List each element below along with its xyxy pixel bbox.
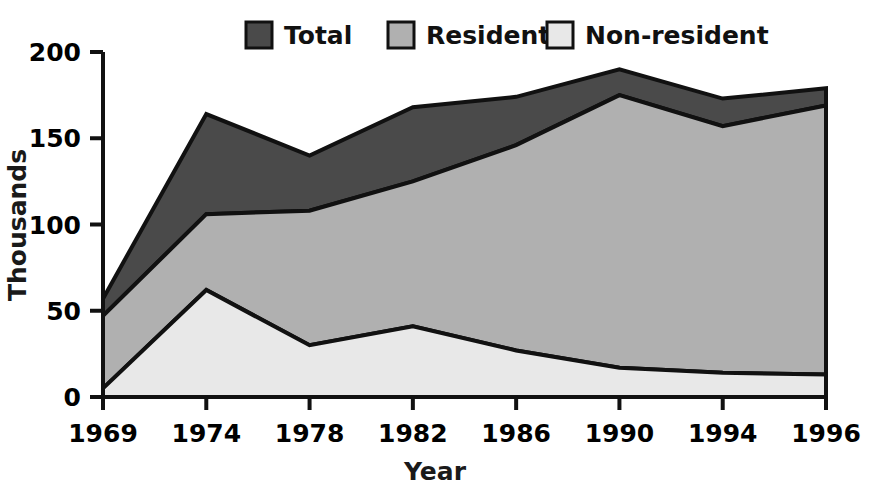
x-axis-tick-label: 1996 — [791, 419, 861, 448]
legend-label-non-resident: Non-resident — [585, 21, 769, 50]
chart-canvas: Total Resident Non-resident 0501001 — [0, 0, 870, 489]
x-axis-title: Year — [403, 457, 467, 486]
legend-label-total: Total — [284, 21, 352, 50]
y-axis-tick-labels: 050100150200 — [29, 38, 81, 412]
y-axis-tick-label: 50 — [46, 297, 81, 326]
y-axis-tick-label: 200 — [29, 38, 81, 67]
stacked-area-chart: Total Resident Non-resident 0501001 — [0, 0, 870, 489]
legend-label-resident: Resident — [426, 21, 550, 50]
x-axis-tick-label: 1978 — [275, 419, 345, 448]
x-axis-tick-labels: 19691974197819821986199019941996 — [68, 419, 861, 448]
x-axis-tick-label: 1974 — [171, 419, 241, 448]
plot-area — [103, 69, 826, 397]
legend-swatch-total — [246, 22, 272, 48]
x-axis-tick-label: 1994 — [688, 419, 758, 448]
x-axis-tick-label: 1990 — [585, 419, 655, 448]
legend-item-resident[interactable]: Resident — [388, 21, 550, 50]
x-axis-tick-label: 1982 — [378, 419, 448, 448]
legend-swatch-non-resident — [547, 22, 573, 48]
y-axis-title: Thousands — [3, 149, 32, 301]
legend-item-total[interactable]: Total — [246, 21, 352, 50]
chart-legend: Total Resident Non-resident — [246, 21, 769, 50]
x-axis-tick-label: 1986 — [481, 419, 551, 448]
y-axis-tick-label: 0 — [64, 383, 81, 412]
y-axis-tick-label: 150 — [29, 124, 81, 153]
y-axis-tick-label: 100 — [29, 211, 81, 240]
legend-swatch-resident — [388, 22, 414, 48]
legend-item-non-resident[interactable]: Non-resident — [547, 21, 769, 50]
x-axis-tick-label: 1969 — [68, 419, 138, 448]
